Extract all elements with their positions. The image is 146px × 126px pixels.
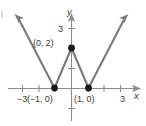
point-marker-0-2 [68, 45, 75, 52]
x-axis-label: x [134, 91, 139, 101]
y-axis-label: y [67, 7, 72, 17]
x-tick-label-3: 3 [120, 95, 125, 104]
y-tick-label-3: 3 [58, 25, 63, 34]
graph-figure: y x 3 3 −3 (0, 2) (−1, 0) (1, 0) [0, 0, 146, 126]
point-label-neg1-0: (−1, 0) [27, 95, 53, 104]
x-tick-label-neg3: −3 [17, 95, 27, 104]
coordinate-plane-plot [0, 0, 146, 126]
point-marker-neg1-0 [51, 85, 58, 92]
point-label-1-0: (1, 0) [74, 95, 94, 104]
point-marker-1-0 [85, 85, 92, 92]
point-label-0-2: (0, 2) [33, 39, 53, 48]
